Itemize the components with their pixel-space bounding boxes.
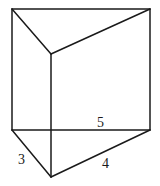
bottom-right-edge [51,130,150,177]
label-front-edge: 4 [102,156,109,171]
top-left-edge [12,9,51,54]
label-left-edge: 3 [18,152,25,167]
prism-diagram: 5 3 4 [0,0,160,186]
label-back-edge: 5 [97,115,104,130]
top-right-edge [51,9,150,54]
